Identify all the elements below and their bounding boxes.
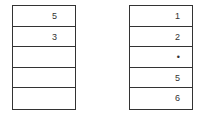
right-cell-5: 6 <box>130 88 192 109</box>
right-cell-4: 5 <box>130 68 192 89</box>
left-cell-4 <box>13 68 75 89</box>
left-cell-5 <box>13 88 75 109</box>
left-cell-3 <box>13 47 75 68</box>
right-column-table: 1 2 • 5 6 <box>129 5 193 110</box>
left-column-table: 5 3 <box>12 5 76 110</box>
right-cell-1: 1 <box>130 6 192 27</box>
right-cell-3: • <box>130 47 192 68</box>
left-cell-2: 3 <box>13 27 75 48</box>
left-cell-1: 5 <box>13 6 75 27</box>
right-cell-2: 2 <box>130 27 192 48</box>
